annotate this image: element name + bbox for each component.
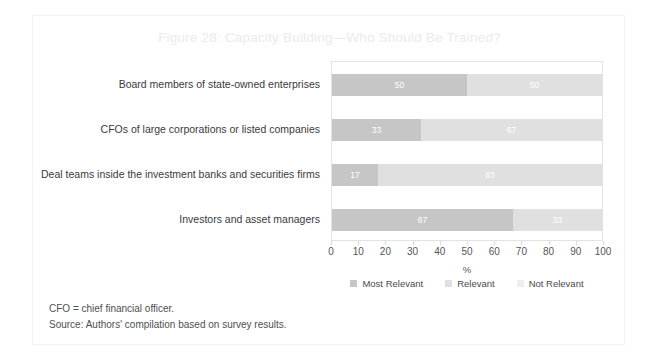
bar-value-label: 33 bbox=[553, 216, 562, 225]
legend-item[interactable]: Most Relevant bbox=[350, 278, 423, 289]
x-axis-tick-label: 10 bbox=[353, 246, 364, 257]
category-label: Investors and asset managers bbox=[179, 208, 320, 230]
bar-row: 1783 bbox=[332, 164, 602, 186]
legend-swatch-icon bbox=[350, 280, 357, 287]
figure-title: Figure 28: Capacity Building—Who Should … bbox=[33, 30, 626, 45]
x-axis-tick-label: 30 bbox=[407, 246, 418, 257]
bar-value-label: 50 bbox=[395, 81, 404, 90]
x-axis-tick-label: 70 bbox=[516, 246, 527, 257]
x-axis-tick bbox=[576, 241, 577, 245]
x-axis-tick-label: 50 bbox=[461, 246, 472, 257]
bar-value-label: 67 bbox=[507, 126, 516, 135]
footnotes-block: CFO = chief financial officer.Source: Au… bbox=[49, 301, 609, 333]
bar-segment: 50 bbox=[332, 74, 467, 96]
legend-label: Relevant bbox=[457, 278, 495, 289]
x-axis-tick-label: 60 bbox=[489, 246, 500, 257]
x-axis-tick bbox=[331, 241, 332, 245]
bar-row: 3367 bbox=[332, 119, 602, 141]
category-label: CFOs of large corporations or listed com… bbox=[101, 118, 320, 140]
bar-segment: 33 bbox=[513, 209, 602, 231]
bar-segment: 67 bbox=[332, 209, 513, 231]
figure-card: Figure 28: Capacity Building—Who Should … bbox=[32, 15, 625, 345]
x-axis-tick bbox=[413, 241, 414, 245]
bar-value-label: 50 bbox=[530, 81, 539, 90]
legend-label: Most Relevant bbox=[362, 278, 423, 289]
category-label: Board members of state-owned enterprises bbox=[119, 73, 320, 95]
x-axis-tick-label: 90 bbox=[570, 246, 581, 257]
bar-value-label: 17 bbox=[350, 171, 359, 180]
category-label: Deal teams inside the investment banks a… bbox=[41, 163, 320, 185]
x-axis-tick-label: 0 bbox=[328, 246, 334, 257]
x-axis-tick-label: 100 bbox=[595, 246, 612, 257]
bar-value-label: 83 bbox=[485, 171, 494, 180]
footnote-line: CFO = chief financial officer. bbox=[49, 301, 609, 317]
legend-item[interactable]: Not Relevant bbox=[517, 278, 584, 289]
category-axis-labels: Board members of state-owned enterprises… bbox=[33, 61, 326, 241]
chart-legend: Most RelevantRelevantNot Relevant bbox=[331, 278, 603, 289]
footnote-line: Source: Authors' compilation based on su… bbox=[49, 317, 609, 333]
x-axis-tick bbox=[467, 241, 468, 245]
x-axis-tick-label: 40 bbox=[434, 246, 445, 257]
legend-label: Not Relevant bbox=[529, 278, 584, 289]
bar-segment: 67 bbox=[421, 119, 602, 141]
bar-row: 6733 bbox=[332, 209, 602, 231]
legend-swatch-icon bbox=[445, 280, 452, 287]
x-axis-tick bbox=[385, 241, 386, 245]
plot-area: 5050336717836733 bbox=[331, 61, 603, 241]
bar-segment: 50 bbox=[467, 74, 602, 96]
legend-swatch-icon bbox=[517, 280, 524, 287]
x-axis-tick bbox=[603, 241, 604, 245]
x-axis-title: % bbox=[331, 264, 603, 275]
x-axis-tick-label: 20 bbox=[380, 246, 391, 257]
legend-item[interactable]: Relevant bbox=[445, 278, 495, 289]
x-axis-tick bbox=[358, 241, 359, 245]
x-axis-tick-label: 80 bbox=[543, 246, 554, 257]
bar-segment: 17 bbox=[332, 164, 378, 186]
x-axis-tick bbox=[494, 241, 495, 245]
bar-segment: 83 bbox=[378, 164, 602, 186]
bar-value-label: 67 bbox=[418, 216, 427, 225]
x-axis-tick bbox=[521, 241, 522, 245]
x-axis-tick bbox=[549, 241, 550, 245]
bar-row: 5050 bbox=[332, 74, 602, 96]
x-axis-tick bbox=[440, 241, 441, 245]
bar-segment: 33 bbox=[332, 119, 421, 141]
bar-value-label: 33 bbox=[372, 126, 381, 135]
